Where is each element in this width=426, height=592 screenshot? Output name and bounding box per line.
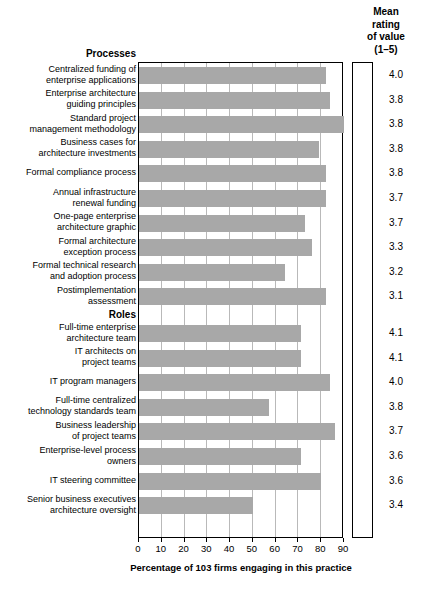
mean-rating-value: 3.2 xyxy=(374,266,418,277)
mean-rating-value: 3.4 xyxy=(374,499,418,510)
category-label: Enterprise-level processowners xyxy=(2,445,136,467)
category-label-line: Senior business executives xyxy=(2,494,136,505)
mean-rating-value: 3.8 xyxy=(374,401,418,412)
category-label-line: assessment xyxy=(2,296,136,307)
bar xyxy=(139,215,305,232)
bar xyxy=(139,423,335,440)
category-label-line: Formal compliance process xyxy=(2,167,136,178)
x-axis-title: Percentage of 103 firms engaging in this… xyxy=(96,562,386,573)
category-label: Standard projectmanagement methodology xyxy=(2,113,136,135)
category-label-line: Enterprise-level process xyxy=(2,445,136,456)
bar xyxy=(139,239,312,256)
bar xyxy=(139,190,326,207)
mean-rating-value: 4.0 xyxy=(374,69,418,80)
category-label-line: IT architects on xyxy=(2,346,136,357)
mean-rating-value: 3.7 xyxy=(374,217,418,228)
category-label-line: owners xyxy=(2,456,136,467)
category-label: Annual infrastructurerenewal funding xyxy=(2,187,136,209)
bar xyxy=(139,116,344,133)
x-tick-label-10: 10 xyxy=(149,543,173,554)
category-label-line: Formal architecture xyxy=(2,236,136,247)
x-tick-80 xyxy=(320,538,321,542)
category-label-line: Standard project xyxy=(2,113,136,124)
category-label: Full-time centralizedtechnology standard… xyxy=(2,395,136,417)
bar xyxy=(139,374,330,391)
mean-rating-column xyxy=(352,62,373,538)
x-tick-label-60: 60 xyxy=(263,543,287,554)
x-tick-label-70: 70 xyxy=(285,543,309,554)
x-tick-20 xyxy=(184,538,185,542)
section-title-processes: Processes xyxy=(4,48,136,59)
x-tick-label-90: 90 xyxy=(331,543,355,554)
mean-rating-value: 4.1 xyxy=(374,352,418,363)
section-title-roles: Roles xyxy=(4,309,136,320)
bar xyxy=(139,448,301,465)
x-tick-10 xyxy=(161,538,162,542)
category-label-line: IT steering committee xyxy=(2,475,136,486)
category-label: IT architects onproject teams xyxy=(2,346,136,368)
category-label-line: architecture oversight xyxy=(2,505,136,516)
category-label: One-page enterprisearchitecture graphic xyxy=(2,211,136,233)
x-tick-label-20: 20 xyxy=(172,543,196,554)
bar xyxy=(139,141,319,158)
mean-rating-value: 3.3 xyxy=(374,241,418,252)
category-label-line: project teams xyxy=(2,357,136,368)
category-label: Formal compliance process xyxy=(2,167,136,178)
category-label-line: Annual infrastructure xyxy=(2,187,136,198)
category-label-line: architecture team xyxy=(2,333,136,344)
mean-rating-value: 3.1 xyxy=(374,290,418,301)
bar xyxy=(139,399,269,416)
bar xyxy=(139,288,326,305)
x-tick-60 xyxy=(275,538,276,542)
mean-rating-value: 3.8 xyxy=(374,94,418,105)
category-label-line: renewal funding xyxy=(2,198,136,209)
bar xyxy=(139,264,285,281)
mean-header-line-4: (1–5) xyxy=(354,44,418,57)
category-label: IT steering committee xyxy=(2,475,136,486)
x-tick-40 xyxy=(229,538,230,542)
category-label-line: Business cases for xyxy=(2,137,136,148)
category-label-line: and adoption process xyxy=(2,271,136,282)
x-tick-0 xyxy=(138,538,139,542)
bar xyxy=(139,92,330,109)
category-label: IT program managers xyxy=(2,376,136,387)
x-tick-label-50: 50 xyxy=(240,543,264,554)
mean-rating-column-header: Mean rating of value (1–5) xyxy=(354,6,418,56)
mean-rating-value: 4.0 xyxy=(374,376,418,387)
mean-header-line-1: Mean xyxy=(354,6,418,19)
x-tick-label-40: 40 xyxy=(217,543,241,554)
mean-header-line-3: of value xyxy=(354,31,418,44)
mean-header-line-2: rating xyxy=(354,19,418,32)
mean-rating-value: 3.8 xyxy=(374,118,418,129)
mean-rating-value: 3.7 xyxy=(374,192,418,203)
bar xyxy=(139,350,301,367)
category-label-line: exception process xyxy=(2,247,136,258)
category-label-line: Business leadership xyxy=(2,420,136,431)
mean-rating-value: 3.6 xyxy=(374,475,418,486)
category-label-line: architecture investments xyxy=(2,148,136,159)
category-label: Business cases forarchitecture investmen… xyxy=(2,137,136,159)
mean-rating-value: 3.8 xyxy=(374,143,418,154)
category-label-line: IT program managers xyxy=(2,376,136,387)
bar xyxy=(139,473,321,490)
category-label-line: technology standards team xyxy=(2,406,136,417)
category-label-line: architecture graphic xyxy=(2,222,136,233)
x-tick-70 xyxy=(297,538,298,542)
mean-rating-value: 3.8 xyxy=(374,167,418,178)
x-tick-label-0: 0 xyxy=(126,543,150,554)
category-label-line: One-page enterprise xyxy=(2,211,136,222)
chart-figure: Mean rating of value (1–5) Processes Rol… xyxy=(0,0,426,592)
mean-rating-value: 3.7 xyxy=(374,425,418,436)
category-label-line: management methodology xyxy=(2,124,136,135)
category-label-line: Postimplementation xyxy=(2,285,136,296)
category-label-line: Full-time centralized xyxy=(2,395,136,406)
category-label-line: Centralized funding of xyxy=(2,64,136,75)
category-label: Senior business executivesarchitecture o… xyxy=(2,494,136,516)
bar xyxy=(139,165,326,182)
category-label: Formal technical researchand adoption pr… xyxy=(2,260,136,282)
mean-rating-value: 3.6 xyxy=(374,450,418,461)
x-tick-90 xyxy=(343,538,344,542)
category-label-line: Enterprise architecture xyxy=(2,88,136,99)
x-tick-label-80: 80 xyxy=(308,543,332,554)
bar xyxy=(139,67,326,84)
